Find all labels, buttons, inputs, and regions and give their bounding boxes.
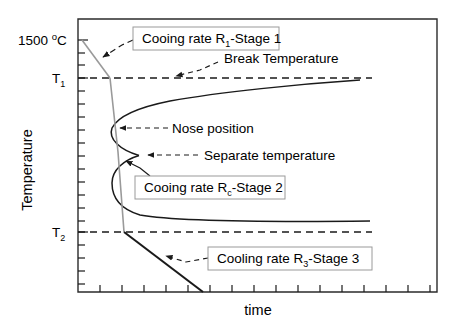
y-tick-label-t2: T2: [52, 225, 65, 243]
stage2-suffix: -Stage 2: [232, 180, 283, 195]
svg-text:T1: T1: [52, 71, 65, 89]
annotation-stage2[interactable]: Cooing rate Rc-Stage 2: [135, 176, 285, 199]
t1-subscript: 1: [60, 79, 65, 89]
t1-symbol: T: [52, 71, 60, 86]
svg-text:1500 oC: 1500 oC: [18, 31, 67, 48]
stage1-prefix: Cooing rate R: [142, 31, 226, 46]
annotation-break-temperature[interactable]: Break Temperature: [224, 51, 339, 66]
svg-text:T2: T2: [52, 225, 65, 243]
ttt-diagram-figure: 1500 oC T1 T2 Temperature time: [0, 0, 459, 325]
diagram-canvas: 1500 oC T1 T2 Temperature time: [0, 0, 459, 325]
annotation-stage1[interactable]: Cooing rate R1-Stage 1: [133, 27, 281, 50]
y-tick-label-1500: 1500 oC: [18, 31, 67, 48]
x-axis-title: time: [244, 302, 271, 318]
stage1-suffix: -Stage 1: [230, 31, 281, 46]
y-label-1500-value: 1500: [18, 33, 52, 48]
y-tick-label-t1: T1: [52, 71, 65, 89]
annotation-stage3[interactable]: Cooling rate R3-Stage 3: [208, 247, 372, 270]
stage2-prefix: Cooing rate R: [144, 180, 228, 195]
y-label-1500-unit: C: [57, 33, 67, 48]
stage3-prefix: Cooling rate R: [217, 251, 304, 266]
annotation-separate-temperature[interactable]: Separate temperature: [204, 148, 335, 163]
y-axis-title: Temperature: [19, 129, 35, 210]
t2-subscript: 2: [60, 233, 65, 243]
annotation-nose-position[interactable]: Nose position: [172, 121, 254, 136]
stage3-suffix: -Stage 3: [308, 251, 359, 266]
t2-symbol: T: [52, 225, 60, 240]
